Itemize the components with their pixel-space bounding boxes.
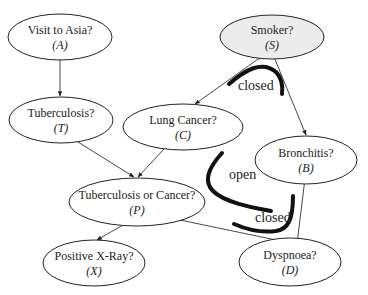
bayesian-network-diagram: Visit to Asia?(A)Smoker?(S)Tuberculosis?… bbox=[0, 0, 368, 295]
node-ellipse bbox=[255, 136, 357, 184]
node-label: Visit to Asia? bbox=[28, 23, 93, 37]
node-b: Bronchitis?(B) bbox=[255, 136, 357, 184]
edge-c-to-p bbox=[138, 149, 164, 177]
node-t: Tuberculosis?(T) bbox=[9, 97, 113, 143]
node-variable: (C) bbox=[175, 128, 191, 142]
node-ellipse bbox=[220, 15, 324, 59]
node-ellipse bbox=[69, 178, 205, 226]
node-variable: (B) bbox=[298, 161, 313, 175]
node-ellipse bbox=[123, 104, 243, 150]
node-variable: (P) bbox=[129, 203, 144, 217]
annotation-label-open: open bbox=[229, 167, 256, 182]
node-label: Lung Cancer? bbox=[149, 113, 217, 127]
node-ellipse bbox=[8, 14, 112, 60]
diagram-canvas: Visit to Asia?(A)Smoker?(S)Tuberculosis?… bbox=[0, 0, 368, 295]
node-p: Tuberculosis or Cancer?(P) bbox=[69, 178, 205, 226]
node-variable: (T) bbox=[54, 121, 69, 135]
node-variable: (A) bbox=[52, 38, 67, 52]
node-label: Dyspnoea? bbox=[263, 248, 316, 262]
node-label: Tuberculosis? bbox=[28, 106, 95, 120]
nodes: Visit to Asia?(A)Smoker?(S)Tuberculosis?… bbox=[8, 14, 357, 286]
annotation-label-closed: closed bbox=[238, 78, 274, 93]
node-s: Smoker?(S) bbox=[220, 15, 324, 59]
node-label: Tuberculosis or Cancer? bbox=[79, 188, 196, 202]
node-a: Visit to Asia?(A) bbox=[8, 14, 112, 60]
node-variable: (D) bbox=[282, 263, 299, 277]
node-ellipse bbox=[239, 238, 341, 286]
node-x: Positive X-Ray?(X) bbox=[43, 240, 145, 286]
node-variable: (S) bbox=[265, 38, 279, 52]
edge-t-to-p bbox=[78, 142, 134, 177]
node-label: Bronchitis? bbox=[278, 146, 333, 160]
node-d: Dyspnoea?(D) bbox=[239, 238, 341, 286]
edge-s-to-b bbox=[272, 52, 306, 135]
annotation-label-closed: closed bbox=[255, 210, 291, 225]
node-ellipse bbox=[9, 97, 113, 143]
node-label: Positive X-Ray? bbox=[55, 249, 134, 263]
node-c: Lung Cancer?(C) bbox=[123, 104, 243, 150]
node-label: Smoker? bbox=[251, 23, 294, 37]
node-ellipse bbox=[43, 240, 145, 286]
node-variable: (X) bbox=[86, 264, 101, 278]
